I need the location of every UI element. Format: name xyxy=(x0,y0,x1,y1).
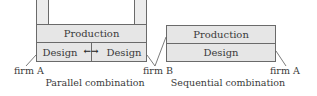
leader-lines xyxy=(0,0,317,96)
